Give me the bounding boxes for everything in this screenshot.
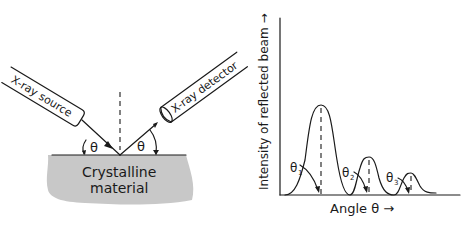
peak2-label: θ 2 [342,166,354,182]
xray-source-label: X-ray source [9,73,75,120]
incident-beam [82,120,120,155]
svg-text:θ: θ [290,161,297,175]
peak1-label: θ 1 [290,161,302,177]
peak3-label: θ 3 [386,171,398,187]
incident-angle-theta: θ [90,140,98,155]
svg-text:2: 2 [350,174,354,182]
material-label-line2: material [90,180,148,196]
xray-detector-label: X-ray detector [169,59,241,116]
reflected-angle-theta: θ [137,139,145,154]
intensity-chart: Intensity of reflected beam → Angle θ → … [257,14,460,216]
svg-text:1: 1 [298,169,302,177]
intensity-curve [285,105,436,195]
peak1-arrowhead [315,186,320,193]
xray-source-tube: X-ray source [2,67,86,127]
reflected-angle-arrowhead [153,150,159,155]
diffraction-setup-diagram: X-ray source X-ray detector θ θ Crystall… [2,52,248,204]
svg-text:θ: θ [342,166,349,180]
material-label-line1: Crystalline [82,164,156,180]
y-axis-label: Intensity of reflected beam → [257,14,271,190]
bragg-diffraction-figure: X-ray source X-ray detector θ θ Crystall… [0,0,474,226]
peak3-arrowhead [405,187,410,194]
reflected-beam-arrowhead [153,122,158,128]
xray-detector-tube: X-ray detector [157,52,247,124]
peak2-arrowhead [363,186,368,193]
svg-text:3: 3 [394,179,398,187]
x-axis-label: Angle θ → [330,201,394,216]
svg-text:θ: θ [386,171,393,185]
